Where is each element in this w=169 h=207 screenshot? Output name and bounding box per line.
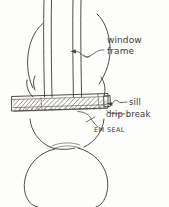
leader-em-seal <box>78 112 98 128</box>
log-middle <box>27 76 105 149</box>
window-sill-detail-sketch: window frame sill drip break EM SEAL <box>0 0 169 207</box>
window-frame <box>43 0 83 97</box>
leader-sill <box>104 96 127 107</box>
label-drip-break: drip break <box>106 110 150 119</box>
label-sill: sill <box>129 98 141 107</box>
sill-slab <box>12 94 108 112</box>
log-lower <box>24 143 107 207</box>
label-em-seal: EM SEAL <box>94 127 125 134</box>
sketch-canvas <box>0 0 169 207</box>
label-window-frame-line1: window <box>107 36 142 45</box>
label-window-frame-line2: frame <box>107 47 134 56</box>
sill-hatching-right <box>43 97 98 110</box>
sill-hatching-left <box>14 99 41 110</box>
sill-hatching-end <box>100 100 107 107</box>
